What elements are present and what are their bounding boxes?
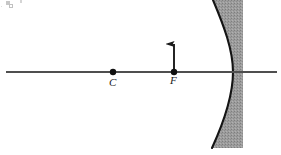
optics-figure: C F — [0, 0, 281, 155]
mirror-body — [212, 0, 243, 148]
center-of-curvature-point — [110, 69, 116, 75]
label-focal-point: F — [170, 75, 177, 86]
optics-diagram-canvas — [0, 0, 281, 155]
scan-artifact-speck — [0, 0, 26, 12]
label-center-of-curvature: C — [109, 77, 116, 88]
